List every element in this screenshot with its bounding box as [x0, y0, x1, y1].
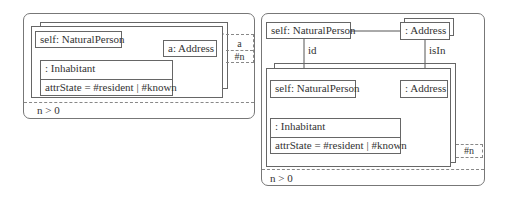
right-tab-count: #n [456, 145, 482, 157]
right-multiplicity-tab: #n [456, 144, 483, 158]
link-label-id: id [308, 44, 317, 56]
left-tab-variable: a [226, 37, 253, 50]
left-multiplicity-tab: a #n [226, 34, 254, 63]
right-inhabitant-role: : Inhabitant attrState = #resident | #kn… [270, 118, 401, 154]
left-self-natural-person: self: NaturalPerson [35, 31, 122, 48]
right-inhabitant-name: : Inhabitant [271, 119, 400, 138]
left-inhabitant-name: : Inhabitant [41, 61, 172, 80]
left-constraint-label: n > 0 [37, 104, 60, 116]
left-inhabitant-attribute: attrState = #resident | #known [41, 80, 172, 94]
right-inhabitant-attribute: attrState = #resident | #known [271, 138, 400, 152]
right-constraint-label: n > 0 [270, 172, 293, 184]
right-self-natural-person-top: self: NaturalPerson [266, 22, 351, 39]
left-inhabitant-role: : Inhabitant attrState = #resident | #kn… [40, 60, 173, 96]
left-tab-count: #n [226, 51, 253, 63]
left-address-object: a: Address [163, 40, 217, 57]
link-label-isIn: isIn [429, 44, 446, 56]
right-address-object-inner: : Address [400, 80, 448, 98]
right-address-object-top: : Address [400, 22, 450, 40]
left-constraint-separator [24, 102, 254, 103]
right-self-natural-person-inner: self: NaturalPerson [270, 80, 356, 98]
right-constraint-separator [262, 169, 484, 170]
